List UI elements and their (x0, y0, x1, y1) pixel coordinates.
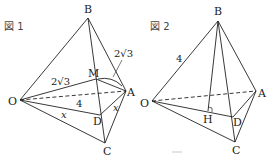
edge-OB (152, 21, 218, 101)
vertex-label-C2: C (232, 144, 240, 157)
vertex-label-C1: C (103, 145, 111, 158)
figure-2-title: 図 2 (150, 21, 170, 32)
edge-BA (218, 21, 256, 91)
edge-label-OD: x (61, 109, 67, 120)
edge-label-DA: x (113, 102, 119, 113)
edge-AC (105, 91, 126, 143)
edge-OD (20, 100, 100, 115)
edge-OD (152, 101, 233, 117)
vertex-label-H2: H (203, 113, 213, 126)
figure-1 (20, 18, 126, 143)
vertex-label-A2: A (257, 87, 267, 100)
vertex-label-O2: O (140, 97, 149, 110)
edge-OC (152, 101, 235, 142)
edge-label-MA: 2√3 (114, 48, 133, 59)
vertex-label-M1: M (88, 67, 99, 80)
edge-OB (20, 18, 88, 100)
edge-label-OB: 4 (176, 53, 182, 64)
vertex-label-B2: B (214, 5, 222, 18)
edge-label-OA: 4 (76, 98, 82, 109)
vertex-label-O1: O (8, 95, 17, 108)
edge-BH (208, 21, 218, 111)
edge-DA (233, 91, 256, 117)
diagram-canvas: 図 1 B M A O D C 2√3 2√3 4 x x 図 2 B A O … (0, 0, 271, 160)
vertex-label-B1: B (84, 3, 92, 16)
figure-1-title: 図 1 (4, 21, 24, 32)
edge-label-OM: 2√3 (51, 76, 70, 87)
vertex-label-A1: A (126, 86, 136, 99)
vertex-label-D1: D (93, 115, 102, 128)
vertex-label-D2: D (233, 116, 242, 129)
edge-OA-hidden (152, 91, 256, 101)
